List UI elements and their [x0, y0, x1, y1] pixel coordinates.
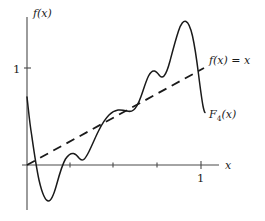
curve-label-base: F — [208, 108, 217, 121]
identity-line-label: f(x) = x — [208, 54, 251, 67]
y-axis-label: f(x) — [32, 7, 52, 20]
x-tick-label-one: 1 — [197, 171, 204, 185]
identity-line — [27, 68, 204, 165]
curve-label: F4(x) — [208, 108, 236, 123]
y-tick-label-one: 1 — [13, 62, 20, 76]
x-axis-label: x — [225, 159, 232, 172]
fourier-curve — [27, 21, 205, 201]
curve-label-argument: (x) — [221, 108, 236, 121]
plot-svg: f(x) 1 1 x f(x) = x F4(x) — [0, 0, 265, 221]
figure-canvas: f(x) 1 1 x f(x) = x F4(x) — [0, 0, 265, 221]
